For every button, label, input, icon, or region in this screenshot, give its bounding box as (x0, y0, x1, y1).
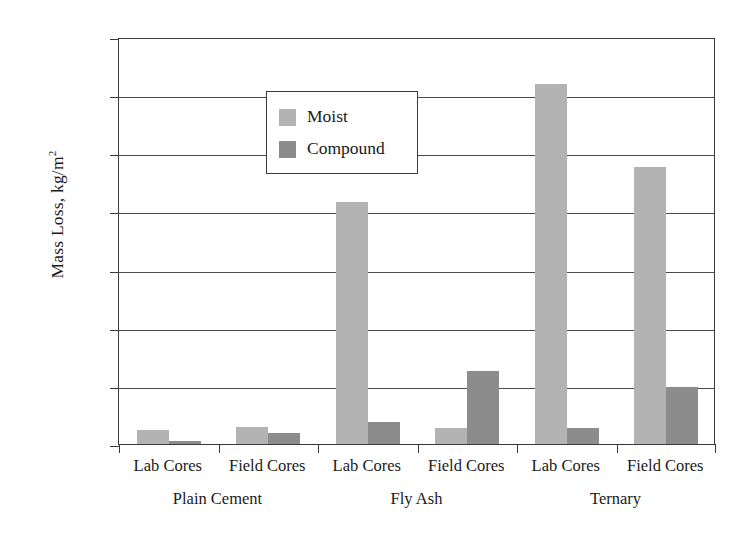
x-axis-group-label: Plain Cement (118, 489, 317, 509)
y-axis-tick (110, 446, 119, 447)
x-axis-category-label: Lab Cores (118, 456, 218, 476)
x-axis-tick (119, 444, 120, 453)
legend-label-moist: Moist (307, 108, 348, 126)
y-axis-tick (110, 39, 119, 40)
legend-swatch-compound-icon (279, 141, 296, 158)
bar-moist (535, 84, 567, 444)
bar-moist (336, 202, 368, 444)
y-axis-title-text: Mass Loss, kg/m (47, 156, 67, 278)
x-axis-tick (715, 444, 716, 453)
legend-item-compound: Compound (279, 133, 417, 165)
bar-moist (435, 428, 467, 444)
legend-swatch-moist-icon (279, 109, 296, 126)
y-axis-tick (110, 155, 119, 156)
y-axis-title-exponent: 2 (46, 151, 58, 157)
plot-area: Moist Compound (118, 38, 715, 445)
bar-compound (666, 387, 698, 444)
y-axis-tick (110, 213, 119, 214)
y-axis-title: Mass Loss, kg/m2 (47, 35, 68, 395)
bar-compound (467, 371, 499, 444)
legend-item-moist: Moist (279, 101, 417, 133)
legend-label-compound: Compound (307, 140, 385, 158)
x-axis-tick (219, 444, 220, 453)
bar-moist (634, 167, 666, 444)
bar-moist (137, 430, 169, 444)
x-axis-tick (617, 444, 618, 453)
chart-figure: Mass Loss, kg/m2 0.00.51.01.52.02.53.03.… (0, 0, 750, 554)
y-axis-tick (110, 388, 119, 389)
x-axis-category-label: Field Cores (616, 456, 716, 476)
x-axis-category-label: Field Cores (218, 456, 318, 476)
y-axis-tick (110, 97, 119, 98)
y-axis-tick (110, 330, 119, 331)
x-axis-group-label: Ternary (516, 489, 715, 509)
x-axis-group-label: Fly Ash (317, 489, 516, 509)
legend: Moist Compound (266, 91, 418, 174)
x-axis-category-label: Field Cores (417, 456, 517, 476)
gridline (119, 213, 714, 214)
bar-compound (169, 441, 201, 444)
y-axis-tick (110, 272, 119, 273)
x-axis-tick (418, 444, 419, 453)
gridline (119, 272, 714, 273)
bar-moist (236, 427, 268, 444)
bar-compound (567, 428, 599, 444)
x-axis-category-label: Lab Cores (516, 456, 616, 476)
x-axis-category-label: Lab Cores (317, 456, 417, 476)
gridline (119, 388, 714, 389)
gridline (119, 330, 714, 331)
x-axis-tick (318, 444, 319, 453)
bar-compound (268, 433, 300, 444)
x-axis-tick (517, 444, 518, 453)
bar-compound (368, 422, 400, 444)
